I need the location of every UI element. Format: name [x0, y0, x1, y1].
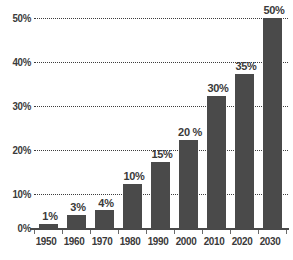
bar-label-2030: 50%	[254, 4, 293, 16]
bar-slot-2020: 35%	[232, 10, 260, 228]
bar-1990[interactable]	[151, 162, 170, 228]
x-tick-label-1990: 1990	[143, 235, 174, 247]
x-tick-6	[202, 230, 203, 234]
x-tick-9	[286, 230, 287, 234]
x-tick-8	[258, 230, 259, 234]
bar-1960[interactable]	[67, 215, 86, 228]
bar-2000[interactable]	[179, 140, 198, 228]
x-tick-label-2010: 2010	[199, 235, 230, 247]
bar-chart: 50% 40% 30% 20% 10% 0% 1% 3% 4% 10% 15%	[0, 0, 293, 260]
bar-slot-1970: 4%	[92, 10, 120, 228]
x-tick-label-2030: 2030	[255, 235, 286, 247]
bar-slot-1980: 10%	[120, 10, 148, 228]
y-tick-label-50: 50%	[5, 12, 31, 24]
x-tick-7	[230, 230, 231, 234]
y-tick-label-40: 40%	[5, 56, 31, 68]
x-tick-3	[118, 230, 119, 234]
bar-slot-1950: 1%	[36, 10, 64, 228]
x-axis: 1950 1960 1970 1980 1990 2000 2010 2020 …	[34, 230, 288, 256]
x-tick-2	[90, 230, 91, 234]
bar-slot-1960: 3%	[64, 10, 92, 228]
bar-1980[interactable]	[123, 184, 142, 228]
y-tick-label-20: 20%	[5, 144, 31, 156]
bar-slot-2010: 30%	[204, 10, 232, 228]
x-tick-1	[62, 230, 63, 234]
x-tick-label-2000: 2000	[171, 235, 202, 247]
x-tick-label-1970: 1970	[87, 235, 118, 247]
bar-slot-1990: 15%	[148, 10, 176, 228]
x-tick-5	[174, 230, 175, 234]
bar-2020[interactable]	[235, 74, 254, 228]
x-tick-0	[34, 230, 35, 234]
y-tick-label-10: 10%	[5, 188, 31, 200]
x-tick-label-1950: 1950	[31, 235, 62, 247]
x-tick-4	[146, 230, 147, 234]
bar-slot-2030: 50%	[260, 10, 288, 228]
y-axis: 50% 40% 30% 20% 10% 0%	[0, 10, 32, 228]
y-tick-label-0: 0%	[5, 222, 31, 234]
bar-2030[interactable]	[263, 18, 282, 228]
bar-series: 1% 3% 4% 10% 15% 20 % 30% 35%	[34, 10, 288, 228]
bar-1970[interactable]	[95, 210, 114, 228]
y-tick-label-30: 30%	[5, 100, 31, 112]
x-tick-label-1960: 1960	[59, 235, 90, 247]
bar-slot-2000: 20 %	[176, 10, 204, 228]
x-tick-label-2020: 2020	[227, 235, 258, 247]
bar-2010[interactable]	[207, 96, 226, 228]
x-tick-label-1980: 1980	[115, 235, 146, 247]
